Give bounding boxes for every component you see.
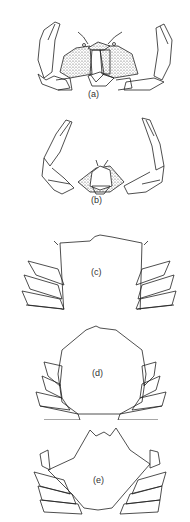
panel-a: (a) (0, 0, 190, 100)
panel-e: (e) (0, 420, 190, 522)
panel-label-d: (d) (92, 368, 103, 378)
crab-front-view-a-illustration (0, 0, 190, 100)
panel-d: (d) (0, 310, 190, 420)
crab-front-view-b-illustration (0, 100, 190, 205)
carapace-dorsal-e-illustration (0, 420, 190, 522)
panel-label-a: (a) (88, 89, 99, 99)
carapace-dorsal-c-illustration (0, 205, 190, 310)
panel-b: (b) (0, 100, 190, 205)
panel-label-e: (e) (93, 475, 104, 485)
panel-c: (c) (0, 205, 190, 310)
carapace-dorsal-d-illustration (0, 310, 190, 420)
panel-label-c: (c) (91, 267, 102, 277)
panel-label-b: (b) (91, 195, 102, 205)
